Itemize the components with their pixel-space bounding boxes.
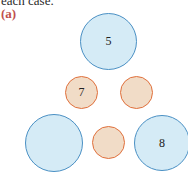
circle-value: 8 (159, 136, 165, 151)
circle-value: 7 (79, 85, 85, 100)
circle-bottom-right: 8 (134, 115, 188, 171)
circle-top: 5 (80, 13, 137, 70)
part-label: (a) (1, 6, 16, 22)
circle-value: 5 (106, 34, 112, 49)
circle-middle-left: 7 (65, 76, 98, 109)
circle-bottom-left (25, 114, 83, 172)
circle-bottom-middle (92, 126, 125, 159)
circle-middle-right (120, 76, 153, 109)
